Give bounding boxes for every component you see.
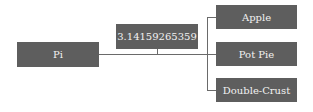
connector-middle-tick (157, 49, 158, 54)
node-pi-label: Pi (53, 49, 63, 60)
node-pot-pie-label: Pot Pie (239, 49, 274, 60)
node-apple-label: Apple (242, 12, 271, 23)
node-pi: Pi (17, 42, 99, 67)
connector-to-double-crust (207, 90, 216, 91)
connector-to-pot-pie (207, 54, 216, 55)
node-double-crust: Double-Crust (216, 78, 297, 102)
connector-to-apple (207, 17, 216, 18)
node-pi-value-label: 3.14159265359 (117, 31, 197, 42)
connector-root-to-branch (99, 54, 207, 55)
node-apple: Apple (216, 5, 297, 29)
node-pot-pie: Pot Pie (216, 42, 297, 66)
node-double-crust-label: Double-Crust (223, 85, 290, 96)
node-pi-value: 3.14159265359 (116, 24, 198, 49)
